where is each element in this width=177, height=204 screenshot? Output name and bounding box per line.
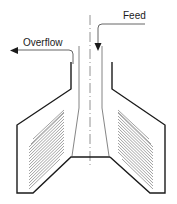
overflow-label: Overflow (23, 38, 62, 48)
feed-label: Feed (123, 11, 146, 21)
arrow-down-icon (95, 43, 102, 51)
left-chamber-wall (17, 62, 110, 193)
overflow-outlet (10, 47, 73, 64)
right-chamber-wall (110, 62, 165, 193)
inclined-plates-left (29, 110, 64, 189)
overflow-line (17, 50, 73, 64)
inclined-plates-right (118, 110, 153, 189)
feed-line (98, 24, 145, 44)
settler-diagram: Feed Overflow (0, 0, 177, 204)
central-column-right-wall (102, 46, 109, 156)
arrow-left-icon (10, 47, 18, 54)
diagram-canvas (0, 0, 177, 204)
